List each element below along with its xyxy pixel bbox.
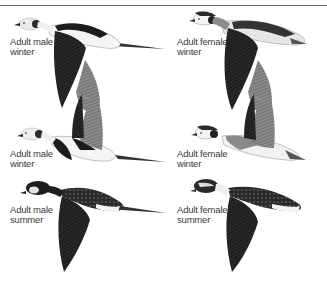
label-line2: summer bbox=[10, 215, 53, 225]
duck-female-summer bbox=[190, 179, 301, 272]
label-line2: winter bbox=[10, 159, 53, 169]
duck-female-winter-top bbox=[189, 12, 307, 118]
duck-male-summer bbox=[20, 181, 166, 272]
label-female-winter-top: Adult female winter bbox=[177, 37, 227, 57]
label-female-winter-mid: Adult female winter bbox=[177, 149, 227, 169]
label-line2: winter bbox=[10, 47, 53, 57]
label-line2: summer bbox=[177, 215, 227, 225]
label-line2: winter bbox=[177, 159, 227, 169]
label-male-winter-top: Adult male winter bbox=[10, 37, 53, 57]
label-male-summer: Adult male summer bbox=[10, 205, 53, 225]
label-female-summer: Adult female summer bbox=[177, 205, 227, 225]
label-male-winter-mid: Adult male winter bbox=[10, 149, 53, 169]
label-line2: winter bbox=[177, 47, 227, 57]
